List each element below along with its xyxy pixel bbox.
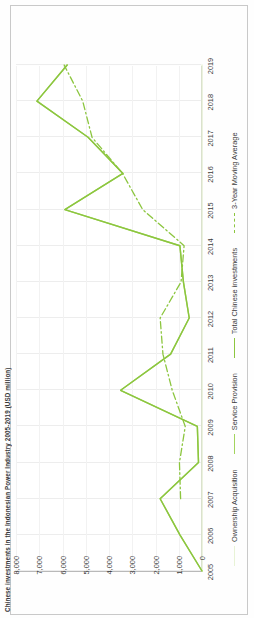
y-axis-tick-text: 5,000 — [82, 552, 91, 575]
x-axis-tick-label: 2017 — [206, 130, 215, 146]
y-axis-tick-label: 3,000 — [128, 552, 137, 596]
legend-swatch-icon — [234, 338, 235, 358]
legend-label: 3-Year Moving Average — [230, 133, 239, 209]
chart-title: Chinese investments in the Indonesian Po… — [4, 12, 12, 612]
x-axis-tick-label: 2012 — [206, 311, 215, 327]
y-axis-tick-text: 4,000 — [105, 552, 114, 575]
x-axis-tick-label: 2011 — [206, 347, 215, 363]
series-line — [37, 65, 202, 571]
series-line — [37, 65, 202, 571]
legend-item[interactable]: Ownership Acquisition — [230, 469, 239, 566]
x-axis-tick-label: 2018 — [206, 94, 215, 110]
y-axis-tick-label: 8,000 — [12, 552, 21, 596]
legend-label: Total Chinese investments — [230, 248, 239, 334]
chart-figure: Chinese investments in the Indonesian Po… — [0, 0, 254, 618]
legend-swatch-icon — [234, 213, 235, 233]
x-axis-tick-label: 2009 — [206, 419, 215, 435]
legend-swatch-icon — [234, 546, 235, 566]
x-axis-tick-label: 2016 — [206, 166, 215, 182]
x-axis-tick-label: 2013 — [206, 275, 215, 291]
y-axis-tick-text: 3,000 — [128, 552, 137, 575]
x-axis-tick-label: 2014 — [206, 238, 215, 254]
y-axis-tick-text: 1,000 — [175, 552, 184, 575]
x-axis-tick-label: 2006 — [206, 528, 215, 544]
legend-label: Service Provision — [230, 373, 239, 430]
chart-legend: Ownership AcquisitionService ProvisionTo… — [226, 133, 242, 567]
x-axis-tick-label: 2010 — [206, 383, 215, 399]
legend-item[interactable]: Service Provision — [230, 373, 239, 454]
y-axis-tick-text: 0 — [198, 552, 207, 560]
series-line — [64, 65, 185, 499]
plot-area — [16, 66, 202, 572]
y-axis-tick-label: 5,000 — [82, 552, 91, 596]
x-axis-tick-label: 2019 — [206, 58, 215, 74]
y-axis-tick-text: 8,000 — [12, 552, 21, 575]
legend-label: Ownership Acquisition — [230, 469, 239, 542]
x-axis-tick-label: 2005 — [206, 564, 215, 580]
y-axis-tick-label: 6,000 — [59, 552, 68, 596]
rotated-chart-wrapper: Chinese investments in the Indonesian Po… — [0, 0, 254, 618]
x-axis-tick-label: 2015 — [206, 202, 215, 218]
y-axis-tick-text: 7,000 — [35, 552, 44, 575]
y-axis-tick-label: 4,000 — [105, 552, 114, 596]
y-axis-tick-text: 6,000 — [59, 552, 68, 575]
x-axis-tick-label: 2007 — [206, 491, 215, 507]
y-axis-tick-text: 2,000 — [152, 552, 161, 575]
legend-swatch-icon — [234, 434, 235, 454]
y-axis-tick-label: 7,000 — [35, 552, 44, 596]
series-lines — [16, 65, 202, 571]
y-axis-tick-label: 1,000 — [175, 552, 184, 596]
y-axis-tick-label: 2,000 — [152, 552, 161, 596]
legend-item[interactable]: 3-Year Moving Average — [230, 133, 239, 233]
x-axis-tick-label: 2008 — [206, 455, 215, 471]
legend-item[interactable]: Total Chinese investments — [230, 248, 239, 358]
